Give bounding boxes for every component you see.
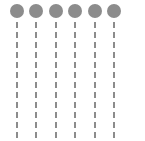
node-circle (107, 4, 121, 18)
node-circle (10, 4, 24, 18)
diagram-canvas (0, 0, 145, 141)
dashed-connector-line (113, 22, 115, 139)
dashed-connector-line (94, 22, 96, 139)
node-circle (88, 4, 102, 18)
dashed-connector-line (35, 22, 37, 139)
dashed-connector-line (16, 22, 18, 139)
node-circle (49, 4, 63, 18)
dashed-connector-line (55, 22, 57, 139)
dashed-connector-line (74, 22, 76, 139)
node-circle (29, 4, 43, 18)
node-circle (68, 4, 82, 18)
